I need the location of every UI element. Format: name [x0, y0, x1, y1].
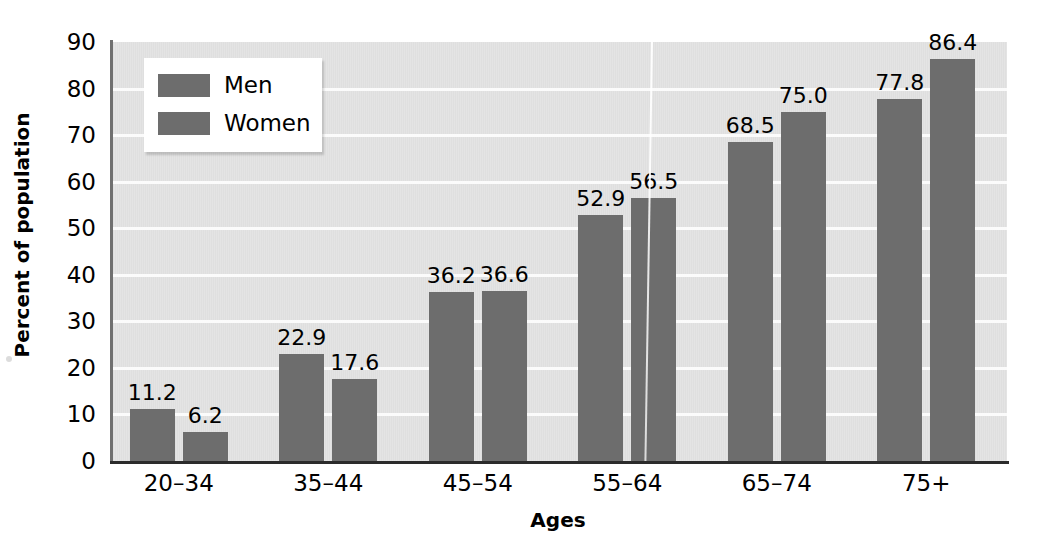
bar-value-label: 22.9: [266, 327, 337, 349]
legend-label: Women: [224, 112, 311, 135]
y-tick-label: 30: [67, 310, 96, 333]
bar-value-label: 77.8: [864, 72, 935, 94]
y-tick-label: 80: [67, 77, 96, 100]
y-axis-title-text: Percent of population: [10, 112, 34, 357]
x-tick-label: 45–54: [443, 470, 513, 496]
legend-entry: Women: [158, 112, 311, 135]
x-tick-label: 35–44: [293, 470, 363, 496]
bar: [877, 99, 922, 461]
y-axis-title: Percent of population: [0, 0, 44, 470]
legend-entry: Men: [158, 74, 273, 97]
gridline: [110, 413, 1007, 416]
legend-swatch: [158, 112, 210, 135]
gridline: [110, 320, 1007, 323]
x-axis-title: Ages: [0, 508, 1060, 532]
bar-value-label: 6.2: [170, 405, 241, 427]
y-tick-label: 90: [67, 31, 96, 54]
y-axis-tick-labels: 0102030405060708090: [46, 0, 104, 470]
bar: [183, 432, 228, 461]
y-tick-label: 20: [67, 356, 96, 379]
x-axis-line: [110, 461, 1009, 464]
bar: [930, 59, 975, 461]
bar: [279, 354, 324, 461]
bar-chart-figure: Percent of population 010203040506070809…: [0, 0, 1060, 548]
gridline: [110, 181, 1007, 184]
x-tick-label: 20–34: [144, 470, 214, 496]
bar: [728, 142, 773, 461]
scan-speck: [6, 356, 12, 362]
legend-label: Men: [224, 74, 273, 97]
x-tick-label: 75+: [902, 470, 951, 496]
legend-swatch: [158, 74, 210, 97]
bar-value-label: 86.4: [917, 32, 988, 54]
bar-value-label: 75.0: [768, 85, 839, 107]
y-tick-label: 70: [67, 124, 96, 147]
y-tick-label: 50: [67, 217, 96, 240]
y-tick-label: 40: [67, 263, 96, 286]
y-axis-line: [110, 40, 113, 463]
bar: [631, 198, 676, 461]
y-tick-label: 10: [67, 403, 96, 426]
chart-legend: MenWomen: [144, 58, 322, 152]
bar-value-label: 11.2: [117, 382, 188, 404]
bar-value-label: 56.5: [618, 171, 689, 193]
bar: [130, 409, 175, 461]
bar: [781, 112, 826, 461]
y-tick-label: 0: [81, 450, 96, 473]
bar: [429, 292, 474, 461]
gridline: [110, 227, 1007, 230]
x-axis-tick-labels: 20–3435–4445–5455–6465–7475+: [110, 470, 1007, 504]
y-tick-label: 60: [67, 170, 96, 193]
bar-value-label: 36.6: [469, 264, 540, 286]
gridline: [110, 274, 1007, 277]
bar-value-label: 68.5: [715, 115, 786, 137]
x-axis-title-text: Ages: [530, 508, 585, 532]
bar-value-label: 17.6: [319, 352, 390, 374]
x-tick-label: 55–64: [592, 470, 662, 496]
bar: [578, 215, 623, 461]
gridline: [110, 367, 1007, 370]
bar: [332, 379, 377, 461]
x-tick-label: 65–74: [742, 470, 812, 496]
bar: [482, 291, 527, 461]
